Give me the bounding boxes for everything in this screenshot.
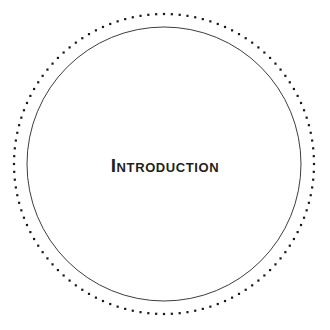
circular-emblem: Introduction: [0, 0, 330, 330]
solid-ring-icon: [27, 27, 301, 301]
chapter-title-page: Introduction: [0, 0, 330, 330]
dotted-ring-icon: [13, 13, 315, 315]
ring-graphics: [0, 0, 330, 330]
